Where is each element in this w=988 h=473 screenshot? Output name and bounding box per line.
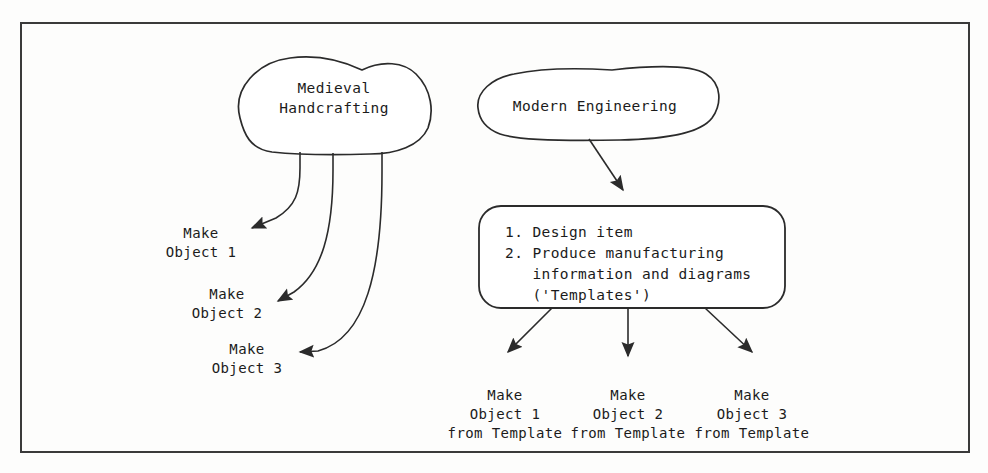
medieval-output-1-line-1: Make (142, 224, 260, 243)
process-box-line-2: 2. Produce manufacturing (505, 243, 785, 265)
medieval-arrow-2 (278, 170, 333, 301)
modern-cloud-label: Modern Engineering (500, 96, 690, 116)
medieval-output-2-line-2: Object 2 (168, 304, 286, 323)
process-box-line-1: 1. Design item (505, 222, 785, 244)
modern-output-2-line-1: Make (561, 386, 695, 405)
box-arrow-right (705, 308, 752, 352)
modern-to-box-arrow (589, 139, 623, 190)
medieval-arrow-3 (300, 172, 382, 352)
box-arrow-left (508, 308, 552, 352)
modern-output-3-line-2: Object 3 (685, 405, 819, 424)
modern-output-3-line-3: from Template (685, 424, 819, 443)
modern-output-1-line-2: Object 1 (438, 405, 572, 424)
medieval-output-3-line-2: Object 3 (188, 359, 306, 378)
process-box-line-4: ('Templates') (505, 285, 785, 307)
medieval-arrow-1 (252, 168, 300, 228)
medieval-cloud-label: Medieval Handcrafting (249, 78, 419, 118)
medieval-output-1-line-2: Object 1 (142, 243, 260, 262)
diagram-figure: Medieval Handcrafting Modern Engineering… (0, 0, 988, 473)
medieval-output-2-line-1: Make (168, 285, 286, 304)
modern-output-3-line-1: Make (685, 386, 819, 405)
process-box-line-3: information and diagrams (505, 264, 795, 286)
modern-output-2-line-2: Object 2 (561, 405, 695, 424)
modern-output-2-line-3: from Template (561, 424, 695, 443)
medieval-output-3-line-1: Make (188, 340, 306, 359)
modern-output-1-line-1: Make (438, 386, 572, 405)
modern-output-1-line-3: from Template (438, 424, 572, 443)
